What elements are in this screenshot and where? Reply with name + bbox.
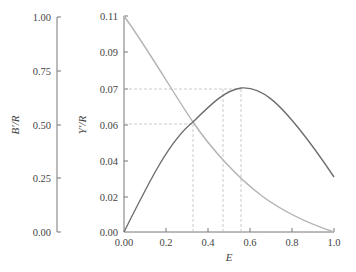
- y-tick-label: 0.06: [100, 120, 118, 131]
- x-tick-label: 0.00: [115, 237, 133, 248]
- left-tick-label: 0.25: [33, 173, 51, 184]
- chart: 1.00 0.75 0.50 0.25 0.00 B'/R 0.11 0.09 …: [0, 0, 356, 272]
- x-tick-label: 0.8: [285, 237, 298, 248]
- y-axis-title: Y'/R: [76, 116, 88, 135]
- x-axis-title: E: [225, 251, 233, 263]
- left-tick-label: 1.00: [33, 12, 51, 23]
- x-tick-label: 1.0: [327, 237, 340, 248]
- y-tick-label: 0.04: [100, 156, 119, 167]
- x-axis: 0.00 0.2 0.4 0.6 0.8 1.0 E: [115, 228, 341, 263]
- y-tick-label: 0.09: [100, 47, 118, 58]
- left-tick-label: 0.50: [33, 120, 51, 131]
- x-tick-label: 0.2: [159, 237, 172, 248]
- y-tick-label: 0.11: [100, 11, 118, 22]
- y-axis: 0.11 0.09 0.07 0.06 0.04 0.02 0.00 Y'/R: [76, 11, 128, 238]
- x-tick-label: 0.4: [201, 237, 215, 248]
- left-axis: 1.00 0.75 0.50 0.25 0.00 B'/R: [9, 12, 61, 238]
- y-tick-label: 0.02: [100, 192, 118, 203]
- series-y-over-r: [124, 88, 334, 232]
- y-tick-label: 0.07: [100, 84, 118, 95]
- left-axis-title: B'/R: [9, 115, 21, 134]
- x-tick-label: 0.6: [243, 237, 256, 248]
- left-tick-label: 0.75: [33, 66, 51, 77]
- left-tick-label: 0.00: [33, 227, 51, 238]
